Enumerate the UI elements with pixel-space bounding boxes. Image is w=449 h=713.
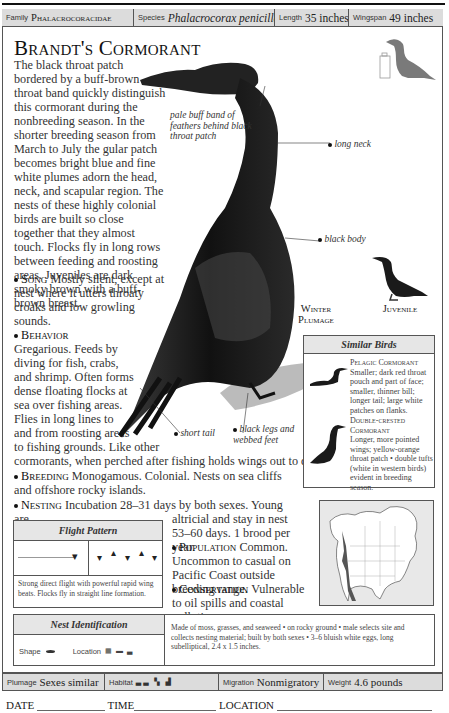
family-value: Phalacrocoracidae [31, 12, 112, 23]
pelagic-cormorant-icon [308, 366, 348, 388]
family-cell: Family Phalacrocoracidae [2, 9, 134, 26]
length-label: Length [279, 13, 302, 22]
wingspan-label: Wingspan [353, 13, 386, 22]
time-field[interactable] [134, 700, 216, 711]
nesting-heading: Nesting [21, 498, 62, 512]
bullet-icon [14, 278, 18, 282]
migration-label: Migration [223, 678, 254, 687]
breeding-heading: Breeding [21, 469, 69, 483]
species-value: Phalacrocorax penicillatus [168, 12, 275, 24]
top-rule [2, 3, 445, 5]
weight-cell: Weight 4.6 pounds [324, 674, 442, 690]
range-map [319, 500, 434, 606]
population-heading: Population [179, 540, 236, 554]
bullet-icon [14, 504, 18, 508]
footer-bar: Plumage Sexes similar Habitat ▃▃ ▚ ▟ Mig… [2, 673, 443, 691]
species-label: Species [138, 13, 165, 22]
callout-body: black body [318, 234, 366, 245]
nest-id-left: Nest Identification Shape Location ▦ ▬ ▃ [14, 615, 165, 665]
callout-dot-icon [174, 432, 178, 436]
similar-birds-title: Similar Birds [304, 336, 434, 354]
bullet-icon [172, 546, 176, 550]
callout-tail: short tail [174, 428, 215, 439]
nest-shape-location: Shape Location ▦ ▬ ▃ [14, 635, 164, 667]
date-field[interactable] [37, 700, 105, 711]
flight-pattern-box: Flight Pattern ▾ ▾ ▴ ▾ ▴ ▾ Strong direct… [13, 520, 163, 608]
callout-throat: pale buff band of feathers behind black … [170, 110, 260, 142]
location-label: LOCATION [219, 699, 274, 711]
double-crested-cormorant-icon [308, 421, 348, 466]
single-flight-diagram: ▾ [14, 541, 89, 575]
location-label: Location [73, 647, 101, 656]
flying-bird-icon: ▾ [152, 552, 157, 563]
length-cell: Length 35 inches [275, 9, 349, 26]
migration-value: Nonmigratory [257, 676, 319, 688]
plumage-cell: Plumage Sexes similar [3, 674, 105, 690]
nest-location-icon: ▦ ▬ ▃ [105, 647, 133, 655]
flock-flight-diagram: ▾ ▴ ▾ ▴ ▾ [89, 541, 162, 575]
migration-cell: Migration Nonmigratory [219, 674, 324, 690]
similar-bird-name: Double-crested Cormorant [350, 416, 434, 435]
nest-identification-box: Nest Identification Shape Location ▦ ▬ ▃… [13, 614, 435, 666]
weight-value: 4.6 pounds [354, 676, 402, 688]
callout-dot-icon [233, 428, 237, 432]
flight-pattern-text: Strong direct flight with powerful rapid… [14, 576, 162, 601]
habitat-icons: ▃▃ ▚ ▟ [136, 678, 173, 686]
nest-shape-icon [46, 650, 55, 653]
plumage-value: Sexes similar [40, 676, 99, 688]
conservation-heading: Conservation [179, 582, 248, 596]
similar-bird-item: Pelagic Cormorant Smaller; dark red thro… [350, 358, 434, 415]
callout-dot-icon [328, 143, 332, 147]
wingspan-cell: Wingspan 49 inches [349, 9, 443, 26]
size-silhouette-icon [378, 36, 440, 84]
song-heading: Song [21, 272, 47, 286]
habitat-label: Habitat [109, 678, 133, 687]
wingspan-value: 49 inches [389, 12, 433, 24]
location-field[interactable] [277, 700, 432, 711]
header-bar: Family Phalacrocoracidae Species Phalacr… [2, 9, 443, 27]
nest-identification-text: Made of moss, grasses, and seaweed • on … [165, 615, 434, 665]
nest-identification-title: Nest Identification [14, 615, 164, 635]
bullet-icon [14, 334, 18, 338]
flight-pattern-diagrams: ▾ ▾ ▴ ▾ ▴ ▾ [14, 541, 162, 576]
breeding-section: Breeding Monogamous. Colonial. Nests on … [14, 469, 294, 497]
flying-bird-icon: ▴ [111, 547, 116, 558]
family-label: Family [6, 13, 28, 22]
callout-dot-icon [318, 238, 322, 242]
bullet-icon [172, 588, 176, 592]
callout-neck: long neck [328, 139, 371, 150]
similar-bird-text: Smaller; dark red throat pouch and part … [350, 368, 434, 416]
date-label: DATE [6, 699, 34, 711]
flying-bird-icon: ▾ [72, 550, 78, 563]
habitat-cell: Habitat ▃▃ ▚ ▟ [105, 674, 219, 690]
behavior-heading: Behavior [21, 328, 68, 342]
juvenile-bird-illustration [370, 254, 430, 302]
flying-bird-icon: ▾ [97, 552, 102, 563]
similar-bird-name: Pelagic Cormorant [350, 358, 434, 368]
cormorant-illustration [100, 38, 330, 438]
species-cell: Species Phalacrocorax penicillatus [134, 9, 275, 26]
flight-pattern-title: Flight Pattern [14, 521, 162, 541]
north-america-map-icon [320, 501, 433, 605]
similar-bird-item: Double-crested Cormorant Longer, more po… [350, 416, 434, 492]
similar-bird-text: Longer, more pointed wings; yellow-orang… [350, 435, 434, 492]
similar-birds-box: Similar Birds Pelagic Cormorant Smaller;… [303, 335, 435, 488]
juvenile-caption: Juvenile [368, 303, 432, 314]
callout-legs: black legs and webbed feet [233, 424, 297, 445]
bullet-icon [14, 475, 18, 479]
shape-label: Shape [19, 647, 41, 656]
winter-plumage-caption: Winter Plumage [288, 303, 344, 325]
time-label: TIME [107, 699, 134, 711]
flying-bird-icon: ▴ [139, 547, 144, 558]
observation-log: DATE TIME LOCATION [6, 699, 432, 711]
weight-label: Weight [328, 678, 351, 687]
flying-bird-icon: ▾ [125, 552, 130, 563]
length-value: 35 inches [305, 12, 349, 24]
plumage-label: Plumage [7, 678, 37, 687]
